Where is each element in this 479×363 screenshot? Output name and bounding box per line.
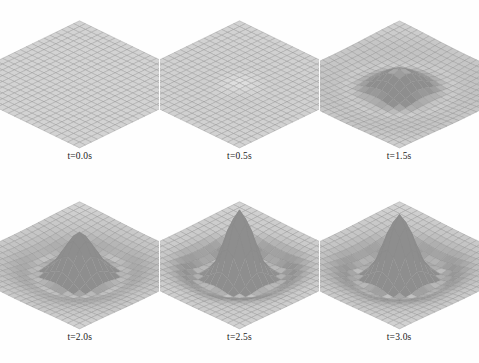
surface-plot-t0 xyxy=(0,0,159,152)
surface-mesh-svg xyxy=(0,181,159,333)
surface-plot-t25 xyxy=(160,181,319,333)
surface-plot-t30 xyxy=(320,181,479,333)
surface-plot-t15 xyxy=(320,0,479,152)
surface-panel-t25: t=2.5s xyxy=(160,181,320,362)
surface-plot-t05 xyxy=(160,0,319,152)
surface-mesh-svg xyxy=(0,0,159,152)
surface-mesh-svg xyxy=(160,181,319,333)
surface-plot-figure: t=0.0s t=0.5s t=1.5s t=2.0s t=2.5s t=3.0… xyxy=(0,0,479,363)
surface-mesh-svg xyxy=(320,0,479,152)
surface-panel-t0: t=0.0s xyxy=(0,0,160,181)
surface-panel-t20: t=2.0s xyxy=(0,181,160,362)
surface-mesh-svg xyxy=(320,181,479,333)
panel-row-bottom: t=2.0s t=2.5s t=3.0s xyxy=(0,181,479,362)
surface-panel-t15: t=1.5s xyxy=(319,0,479,181)
surface-plot-t20 xyxy=(0,181,159,333)
surface-mesh-svg xyxy=(160,0,319,152)
panel-row-top: t=0.0s t=0.5s t=1.5s xyxy=(0,0,479,181)
surface-panel-t30: t=3.0s xyxy=(319,181,479,362)
surface-panel-t05: t=0.5s xyxy=(160,0,320,181)
